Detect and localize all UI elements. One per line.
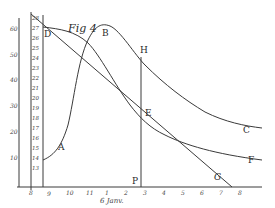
label-e: E — [145, 108, 152, 118]
svg-text:14: 14 — [32, 155, 39, 161]
svg-text:6: 6 — [200, 189, 204, 196]
label-c: C — [243, 125, 250, 135]
svg-text:19: 19 — [32, 105, 39, 111]
svg-text:20: 20 — [9, 128, 18, 135]
svg-text:25: 25 — [31, 45, 39, 51]
svg-text:17: 17 — [32, 125, 39, 131]
x-ticks: 8 9 10 11 1 2 3 4 5 6 7 8 6 Janv. — [29, 189, 242, 205]
inner-y-ticks: 28 27 26 25 24 23 22 21 20 19 18 17 16 1… — [31, 15, 39, 171]
svg-text:21: 21 — [31, 85, 39, 91]
svg-text:8: 8 — [29, 189, 33, 196]
svg-text:22: 22 — [31, 75, 39, 81]
svg-text:13: 13 — [32, 165, 39, 171]
svg-text:50: 50 — [10, 51, 18, 58]
svg-text:27: 27 — [31, 25, 39, 31]
svg-text:60: 60 — [10, 25, 18, 32]
curve-def — [43, 27, 262, 160]
line-to-g — [31, 14, 232, 187]
svg-text:18: 18 — [32, 115, 39, 121]
svg-text:23: 23 — [31, 65, 39, 71]
label-h: H — [140, 45, 148, 55]
svg-text:11: 11 — [86, 189, 94, 196]
svg-text:5: 5 — [181, 189, 185, 196]
label-g: G — [214, 172, 221, 182]
x-axis-label: 6 Janv. — [100, 197, 124, 205]
svg-text:9: 9 — [47, 190, 51, 197]
svg-text:3: 3 — [143, 189, 147, 196]
label-d: D — [44, 29, 51, 39]
svg-text:40: 40 — [9, 76, 18, 83]
curve-abc — [43, 25, 262, 160]
svg-text:4: 4 — [161, 189, 166, 196]
label-b: B — [102, 28, 109, 38]
label-f: F — [248, 155, 254, 165]
outer-y-ticks: 60 50 40 30 20 10 — [9, 25, 18, 161]
svg-text:16: 16 — [32, 135, 39, 141]
label-p: P — [132, 176, 138, 186]
svg-text:20: 20 — [31, 95, 39, 101]
svg-text:10: 10 — [66, 189, 74, 196]
chart-figure: 60 50 40 30 20 10 28 27 26 25 24 23 22 2… — [0, 0, 275, 208]
svg-text:15: 15 — [32, 145, 39, 151]
svg-text:2: 2 — [123, 189, 128, 196]
label-a: A — [57, 142, 65, 152]
svg-text:24: 24 — [31, 55, 39, 61]
svg-text:30: 30 — [10, 102, 18, 109]
svg-text:8: 8 — [238, 189, 242, 196]
svg-text:26: 26 — [31, 35, 39, 41]
svg-text:7: 7 — [219, 189, 223, 196]
svg-text:10: 10 — [10, 154, 18, 161]
svg-text:1: 1 — [105, 189, 109, 196]
